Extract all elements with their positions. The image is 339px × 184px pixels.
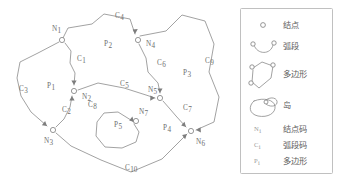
arrow-C4	[133, 29, 138, 34]
arc-path-C9	[140, 15, 219, 130]
node-label-N7: N7	[139, 108, 149, 118]
arrow-C1	[71, 80, 76, 85]
polygon-label-P3: P3	[183, 69, 191, 79]
legend-label-0: 结点	[283, 20, 299, 30]
arc-label-C5: C5	[120, 80, 129, 90]
node-marker-N5	[157, 95, 162, 100]
legend-label-1: 弧段	[283, 41, 299, 51]
node-marker-N4	[135, 37, 140, 42]
arc-path-C4	[62, 14, 135, 40]
node-marker-N7	[133, 118, 138, 123]
node-marker-N6	[188, 128, 193, 133]
arc-label-C9: C9	[205, 57, 214, 67]
arc-label-C7: C7	[183, 104, 192, 114]
arc-path-C1	[65, 43, 75, 85]
legend-label-6: 多边形	[283, 156, 307, 166]
arc-labels: C1 C2 C3 C4 C5 C6 C7 C8 C9 C10	[19, 12, 214, 174]
arrow-C9	[196, 127, 201, 132]
arc-path-C10	[56, 133, 187, 172]
node-label-N4: N4	[146, 40, 156, 50]
node-label-N6: N6	[196, 138, 206, 148]
arrow-C5	[150, 96, 155, 101]
arc-label-C6: C6	[157, 59, 166, 69]
arc-label-C8: C8	[88, 101, 97, 111]
polygon-label-P5: P5	[114, 121, 122, 131]
arc-label-C10: C10	[125, 164, 138, 174]
arc-label-C1: C1	[77, 55, 86, 65]
legend-label-5: 弧段码	[283, 140, 307, 150]
topology-diagram-figure: N1 N2 N3 N4 N5 N6 N7 C1 C2 C3 C4 C5 C6 C…	[0, 0, 339, 184]
node-label-N5: N5	[148, 86, 158, 96]
legend-panel: 结点 弧段 多边形 岛 Ni 结点码 Ci 弧段码 Pi	[241, 9, 333, 174]
arrow-C6	[157, 88, 162, 93]
node-label-N3: N3	[44, 137, 54, 147]
polygon-label-P4: P4	[163, 124, 171, 134]
node-marker-N2	[71, 88, 76, 93]
arc-label-C4: C4	[115, 12, 124, 22]
polygon-label-P2: P2	[104, 40, 112, 50]
arrow-C2	[69, 96, 74, 101]
legend-node-circle-symbol-icon	[261, 23, 266, 28]
polygon-label-P1: P1	[47, 82, 55, 92]
legend-label-2: 多边形	[283, 69, 307, 79]
node-label-N1: N1	[52, 25, 62, 35]
arc-label-C2: C2	[62, 106, 71, 116]
legend-label-3: 岛	[283, 100, 291, 110]
node-marker-N3	[50, 127, 55, 132]
diagram-canvas: N1 N2 N3 N4 N5 N6 N7 C1 C2 C3 C4 C5 C6 C…	[17, 12, 219, 174]
legend-label-4: 结点码	[283, 124, 307, 134]
node-marker-N1	[59, 37, 64, 42]
